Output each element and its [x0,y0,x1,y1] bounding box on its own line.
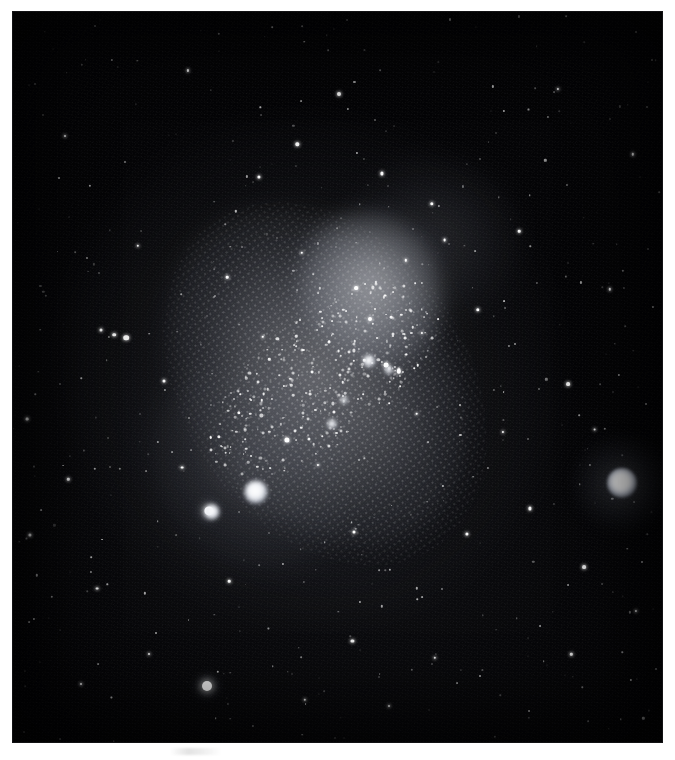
galaxy-resolved-star [249,398,251,400]
faint-star-point [565,276,566,277]
galaxy-resolved-star [337,349,340,352]
galaxy-resolved-star [262,468,264,470]
galaxy-resolved-star [229,452,231,454]
galaxy-resolved-star [388,380,391,383]
faint-star-point [608,728,609,729]
faint-star-point [570,122,571,123]
galaxy-resolved-star [290,384,293,387]
galaxy-resolved-star [311,371,314,374]
galaxy-resolved-star [262,392,265,395]
faint-star-point [589,464,591,466]
faint-star-point [371,584,372,585]
star-point [226,276,229,279]
star-point [187,69,189,71]
faint-star-point [110,495,111,496]
faint-star-point [379,263,380,264]
galaxy-resolved-star [249,417,250,418]
star-point [352,531,355,534]
faint-star-point [340,218,341,219]
faint-star-point [135,103,136,104]
faint-star-point [622,287,624,289]
galaxy-resolved-star [321,325,323,327]
galaxy-resolved-star [361,366,363,368]
galaxy-resolved-star [282,385,284,387]
faint-star-point [25,670,26,671]
galaxy-resolved-star [329,412,330,413]
galaxy-resolved-star [267,407,269,409]
faint-star-point [186,682,187,683]
faint-star-point [472,476,474,478]
galaxy-resolved-star [247,417,248,418]
faint-star-point [441,588,443,590]
galaxy-resolved-star [302,416,304,418]
faint-star-point [176,331,178,333]
faint-star-point [199,537,201,539]
faint-star-point [213,261,215,263]
galaxy-resolved-star [297,340,298,341]
faint-star-point [291,673,293,675]
galaxy-resolved-star [257,429,258,430]
faint-star-point [364,50,365,51]
faint-star-point [252,181,254,183]
galaxy-resolved-star [426,313,428,315]
faint-star-point [565,675,566,676]
faint-star-point [95,417,96,418]
faint-star-point [305,703,307,705]
galaxy-resolved-star [402,333,404,335]
galaxy-resolved-star [392,367,394,369]
galaxy-resolved-star [422,309,423,310]
faint-star-point [495,629,497,631]
faint-star-point [443,500,445,502]
faint-star-point [487,467,489,469]
galaxy-resolved-star [342,413,344,415]
galaxy-resolved-star [270,407,271,408]
galaxy-resolved-star [314,409,316,411]
faint-star-point [637,387,638,388]
galaxy-resolved-star [243,428,246,431]
faint-star-point [388,206,390,208]
faint-star-point [543,661,545,663]
faint-star-point [356,242,358,244]
faint-star-point [28,621,30,623]
star-point [566,382,570,386]
galaxy-resolved-star [276,338,279,341]
galaxy-resolved-star [210,436,212,438]
galaxy-resolved-star [370,291,372,293]
faint-star-point [81,378,82,379]
faint-star-point [363,158,365,160]
faint-star-point [107,437,109,439]
knot-core-b [385,366,393,374]
galaxy-resolved-star [316,329,318,331]
faint-star-point [34,83,36,85]
galaxy-resolved-star [296,340,298,342]
faint-star-point [190,450,192,452]
faint-star-point [292,125,294,127]
galaxy-resolved-star [256,466,258,468]
star-point [593,428,596,431]
galaxy-resolved-star [370,356,371,357]
faint-star-point [246,175,248,177]
galaxy-resolved-star [357,398,359,400]
faint-star-point [332,416,333,417]
faint-star-point [609,118,611,120]
galaxy-resolved-star [243,453,245,455]
galaxy-resolved-star [355,328,357,330]
faint-star-point [611,498,613,500]
faint-star-point [239,324,240,325]
faint-star-point [482,615,483,616]
galaxy-resolved-star [344,320,347,323]
galaxy-resolved-star [302,425,304,427]
page-root: Monochrome astronomical plate showing an… [0,0,675,760]
faint-star-point [353,81,355,83]
faint-star-point [647,81,648,82]
faint-star-point [463,396,464,397]
faint-star-point [411,669,413,671]
faint-star-point [572,676,573,677]
faint-star-point [352,373,354,375]
galaxy-resolved-star [240,394,241,395]
galaxy-resolved-star [328,426,331,429]
faint-star-point [457,340,458,341]
galaxy-resolved-star [285,385,287,387]
galaxy-resolved-star [393,377,394,378]
galaxy-resolved-star [337,396,339,398]
